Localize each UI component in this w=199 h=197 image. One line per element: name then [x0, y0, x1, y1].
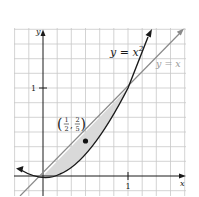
curve-label: y = x2 [109, 45, 144, 59]
svg-text:2: 2 [76, 116, 80, 124]
curve-top-arrow-icon [146, 29, 153, 38]
svg-text:1: 1 [65, 116, 69, 124]
y-axis-arrow-icon [41, 30, 46, 37]
line-y-equals-x [20, 29, 184, 197]
svg-text:5: 5 [76, 125, 80, 133]
svg-text:,: , [70, 120, 73, 130]
line-label: y = x [155, 58, 181, 69]
svg-text:): ) [81, 116, 86, 132]
x-axis-label: x [180, 179, 185, 188]
centroid-point [83, 138, 88, 143]
svg-text:2: 2 [65, 125, 69, 133]
y-tick-label-1: 1 [31, 84, 36, 93]
svg-text:(: ( [57, 116, 62, 132]
x-tick-label-1: 1 [126, 182, 131, 191]
y-axis-label: y [35, 27, 41, 36]
chart: y = x2 y = x x y 1 1 ( 1 2 , 2 5 ) [0, 0, 199, 196]
